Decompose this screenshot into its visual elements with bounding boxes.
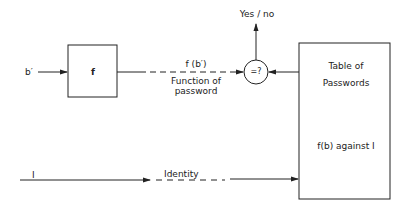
comparator-label: =?: [251, 67, 262, 77]
function-output-caption-line1: Function of: [171, 76, 221, 86]
function-box-label: f: [91, 67, 95, 77]
diagram-canvas: [0, 0, 407, 208]
table-title-line2: Passwords: [323, 78, 370, 88]
identity-line-label: Identity: [164, 169, 199, 179]
input-label: b′: [25, 67, 33, 77]
result-label: Yes / no: [240, 9, 275, 19]
function-output-label: f (b′): [186, 59, 207, 69]
function-output-caption-line2: password: [175, 86, 218, 96]
table-title-line1: Table of: [329, 61, 364, 71]
identity-input-label: I: [32, 170, 35, 180]
table-content: f(b) against I: [317, 141, 374, 151]
